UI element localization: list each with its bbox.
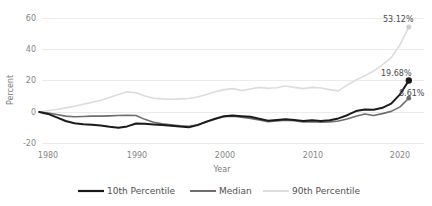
x-tick-1990: 1990 (127, 151, 147, 160)
data-label-median: 8.61% (399, 89, 425, 98)
legend-label-median[interactable]: Median (219, 186, 252, 196)
x-axis-tick-labels: 1980 1990 2000 2010 2020 (38, 151, 410, 160)
series-line-10th-percentile (39, 81, 409, 128)
y-axis-tick-labels: 60 40 20 0 -20 (23, 14, 36, 148)
y-tick-40: 40 (26, 45, 36, 54)
gridlines (42, 18, 424, 143)
data-label-10th: 19.68% (381, 69, 412, 78)
endpoint-marker-10th (406, 77, 412, 83)
series-group (39, 27, 409, 128)
x-axis-title: Year (213, 165, 232, 174)
y-axis-title: Percent (6, 75, 15, 105)
x-tick-2000: 2000 (215, 151, 235, 160)
x-tick-1980: 1980 (38, 151, 58, 160)
y-tick-20: 20 (26, 76, 36, 85)
data-label-90th: 53.12% (383, 15, 414, 24)
x-tick-2010: 2010 (303, 151, 323, 160)
endpoint-marker-90th (406, 24, 411, 29)
y-tick-0: 0 (31, 108, 36, 117)
chart-canvas: 60 40 20 0 -20 1980 1990 2000 2010 2020 … (0, 0, 432, 206)
y-tick-60: 60 (26, 14, 36, 23)
legend-label-90th-percentile[interactable]: 90th Percentile (292, 186, 360, 196)
data-labels: 53.12% 19.68% 8.61% (381, 15, 425, 98)
series-line-90th-percentile (39, 27, 409, 112)
legend-label-10th-percentile[interactable]: 10th Percentile (107, 186, 175, 196)
x-tick-2020: 2020 (390, 151, 410, 160)
y-tick-minus20: -20 (23, 139, 36, 148)
line-chart: 60 40 20 0 -20 1980 1990 2000 2010 2020 … (0, 0, 432, 206)
legend: 10th Percentile Median 90th Percentile (78, 186, 360, 196)
